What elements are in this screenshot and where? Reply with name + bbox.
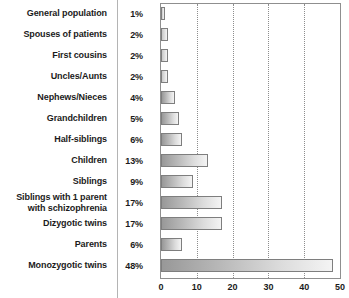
- chart-row: General population1%: [0, 7, 349, 20]
- x-tick-label: 30: [263, 282, 273, 292]
- category-label: General population: [0, 8, 112, 18]
- chart-row: First cousins2%: [0, 49, 349, 62]
- x-axis: 01020304050: [160, 280, 341, 298]
- chart-row: Grandchildren5%: [0, 112, 349, 125]
- x-tick-label: 10: [192, 282, 202, 292]
- value-label: 9%: [112, 177, 150, 187]
- value-label: 48%: [112, 261, 150, 271]
- category-label: Grandchildren: [0, 113, 112, 123]
- chart-row: Parents6%: [0, 238, 349, 251]
- category-label: Siblings: [0, 176, 112, 186]
- category-rows: General population1%Spouses of patients2…: [0, 0, 349, 298]
- category-label: Uncles/Aunts: [0, 71, 112, 81]
- x-tick-label: 20: [228, 282, 238, 292]
- value-label: 2%: [112, 51, 150, 61]
- chart-row: Monozygotic twins48%: [0, 259, 349, 272]
- chart-row: Dizygotic twins17%: [0, 217, 349, 230]
- category-label: Nephews/Nieces: [0, 92, 112, 102]
- x-tick-label: 0: [158, 282, 163, 292]
- category-label: Monozygotic twins: [0, 260, 112, 270]
- chart-row: Children13%: [0, 154, 349, 167]
- chart-row: Half-siblings6%: [0, 133, 349, 146]
- chart-row: Siblings with 1 parentwith schizophrenia…: [0, 196, 349, 209]
- schizophrenia-risk-bar-chart: General population1%Spouses of patients2…: [0, 0, 349, 298]
- chart-row: Nephews/Nieces4%: [0, 91, 349, 104]
- x-tick-label: 50: [335, 282, 345, 292]
- category-label: Spouses of patients: [0, 29, 112, 39]
- category-label: Siblings with 1 parentwith schizophrenia: [0, 192, 112, 212]
- category-label: Children: [0, 155, 112, 165]
- x-tick-label: 40: [299, 282, 309, 292]
- value-label: 17%: [112, 219, 150, 229]
- chart-row: Siblings9%: [0, 175, 349, 188]
- chart-row: Spouses of patients2%: [0, 28, 349, 41]
- category-label: First cousins: [0, 50, 112, 60]
- chart-row: Uncles/Aunts2%: [0, 70, 349, 83]
- category-label: Parents: [0, 239, 112, 249]
- value-label: 6%: [112, 135, 150, 145]
- value-label: 1%: [112, 9, 150, 19]
- value-label: 13%: [112, 156, 150, 166]
- value-label: 17%: [112, 198, 150, 208]
- value-label: 5%: [112, 114, 150, 124]
- value-label: 4%: [112, 93, 150, 103]
- value-label: 6%: [112, 240, 150, 250]
- value-label: 2%: [112, 72, 150, 82]
- category-label: Dizygotic twins: [0, 218, 112, 228]
- value-label: 2%: [112, 30, 150, 40]
- category-label: Half-siblings: [0, 134, 112, 144]
